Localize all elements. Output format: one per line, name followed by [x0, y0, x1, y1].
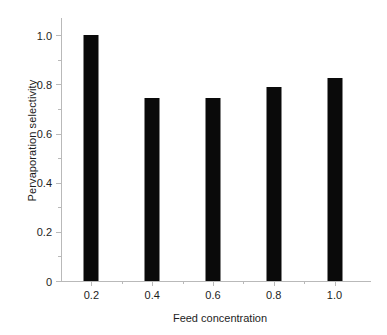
y-axis-title: Pervaporation selectivity: [22, 0, 42, 281]
y-minor-tick-mark: [58, 158, 61, 159]
x-tick-label: 0.2: [84, 289, 99, 301]
x-tick-mark: [91, 281, 92, 286]
bar: [145, 98, 160, 281]
x-tick-mark: [335, 281, 336, 286]
y-tick-mark: 0.4: [56, 183, 61, 184]
y-minor-tick-mark: [58, 256, 61, 257]
y-tick-mark: 0.8: [56, 84, 61, 85]
x-minor-tick-mark: [243, 281, 244, 284]
x-tick-label: 0.4: [145, 289, 160, 301]
x-axis-title: Feed concentration: [60, 312, 380, 324]
x-minor-tick-mark: [304, 281, 305, 284]
y-tick-mark: 1.0: [56, 35, 61, 36]
bar: [84, 35, 99, 281]
y-minor-tick-mark: [58, 60, 61, 61]
x-tick-label: 0.8: [266, 289, 281, 301]
x-axis-spine: [61, 281, 371, 282]
bar: [266, 87, 281, 281]
x-tick-mark: [152, 281, 153, 286]
x-tick-label: 1.0: [327, 289, 342, 301]
y-tick-label: 0.6: [37, 128, 52, 140]
y-tick-label: 0.2: [37, 226, 52, 238]
x-tick-mark: [274, 281, 275, 286]
bar-chart-figure: Pervaporation selectivity Feed concentra…: [0, 0, 387, 335]
x-minor-tick-mark: [183, 281, 184, 284]
x-tick-mark: [213, 281, 214, 286]
y-tick-label: 0.4: [37, 177, 52, 189]
bar: [327, 78, 342, 281]
y-minor-tick-mark: [58, 207, 61, 208]
y-tick-label: 0.8: [37, 79, 52, 91]
y-tick-mark: 0: [56, 281, 61, 282]
y-minor-tick-mark: [58, 109, 61, 110]
plot-area: 00.20.40.60.81.0 0.20.40.60.81.0: [61, 18, 371, 281]
bar: [205, 98, 220, 281]
x-tick-label: 0.6: [205, 289, 220, 301]
y-tick-mark: 0.2: [56, 232, 61, 233]
y-tick-label: 0: [46, 276, 52, 288]
y-tick-mark: 0.6: [56, 134, 61, 135]
x-minor-tick-mark: [122, 281, 123, 284]
y-axis-spine: [61, 18, 62, 281]
y-tick-label: 1.0: [37, 30, 52, 42]
